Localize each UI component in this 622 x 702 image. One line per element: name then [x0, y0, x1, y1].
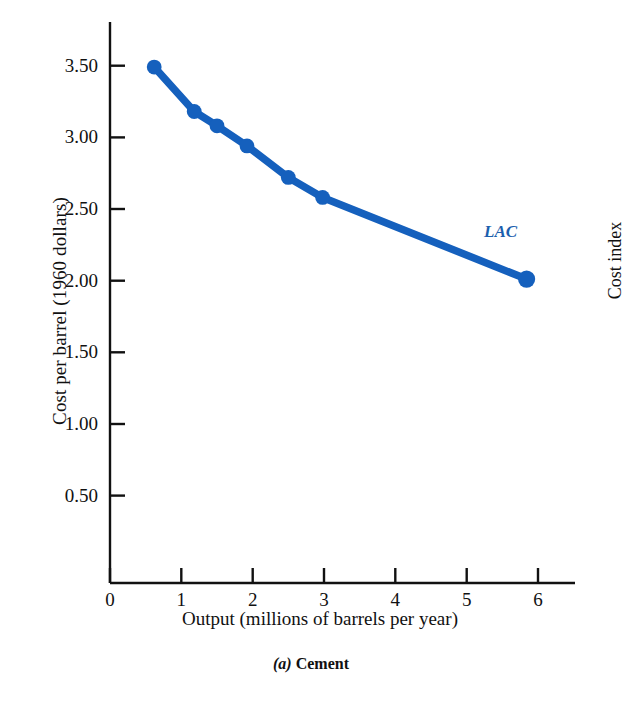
right-panel-axis-title: Cost index	[605, 146, 622, 376]
x-axis-ticks	[110, 568, 538, 583]
figure-caption: (a) Cement	[0, 655, 622, 673]
data-point	[315, 190, 330, 205]
figure-panel-a-cement: Cost per barrel (1960 dollars)	[0, 0, 622, 702]
series-line-lac	[154, 67, 526, 279]
series-markers-lac	[147, 60, 535, 288]
data-point	[518, 271, 535, 288]
x-axis-title: Output (millions of barrels per year)	[100, 608, 540, 630]
figure-caption-text: Cement	[296, 655, 349, 672]
y-tick-label-0-50: 0.50	[20, 485, 98, 507]
y-tick-label-2-00: 2.00	[20, 270, 98, 292]
y-tick-label-2-50: 2.50	[20, 198, 98, 220]
y-tick-label-1-00: 1.00	[20, 413, 98, 435]
y-tick-label-3-50: 3.50	[20, 55, 98, 77]
y-tick-label-1-50: 1.50	[20, 341, 98, 363]
data-point	[240, 139, 255, 154]
series-annotation-lac: LAC	[484, 222, 517, 242]
y-tick-label-3-00: 3.00	[20, 126, 98, 148]
data-point	[187, 104, 202, 119]
data-point	[281, 170, 296, 185]
y-axis-ticks	[110, 66, 125, 496]
data-point	[210, 118, 225, 133]
data-point	[147, 60, 162, 75]
figure-caption-letter: (a)	[273, 655, 292, 672]
